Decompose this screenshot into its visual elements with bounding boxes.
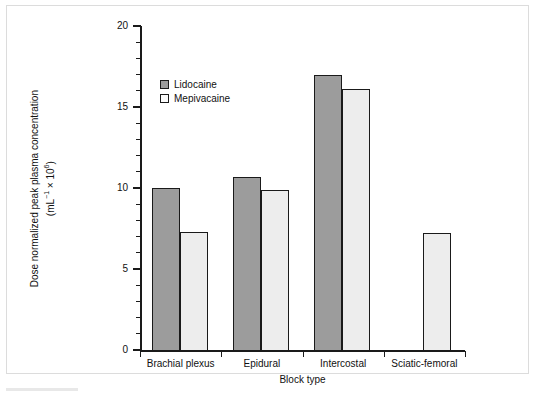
bar-mepivacaine-epidural: [261, 190, 289, 351]
x-axis-tick: [303, 351, 304, 357]
y-axis-tick-label: 20: [100, 21, 128, 31]
y-axis-title-line-2: (mL−1 × 106): [41, 84, 56, 294]
legend-entry-lidocaine: Lidocaine: [160, 78, 230, 91]
y-axis-title-line-1: Dose normalized peak plasma concentratio…: [29, 84, 41, 294]
y-axis-minor-tick: [136, 139, 141, 140]
bar-mepivacaine-intercostal: [342, 89, 370, 351]
y-axis-major-tick: [133, 106, 141, 107]
y-axis-minor-tick: [136, 204, 141, 205]
bar-lidocaine-epidural: [233, 177, 261, 351]
y-axis-minor-tick: [136, 123, 141, 124]
y-axis-tick-label: 15: [100, 102, 128, 112]
y-axis-minor-tick: [136, 155, 141, 156]
y-axis-major-tick: [133, 268, 141, 269]
y-axis-minor-tick: [136, 171, 141, 172]
bar-chart-plot-area: 05101520 Brachial plexusEpiduralIntercos…: [0, 0, 537, 401]
y-axis-major-tick: [133, 187, 141, 188]
y-axis-major-tick: [133, 25, 141, 26]
y-axis-tick-label-wrap: 10: [98, 183, 128, 193]
y-axis-tick-label: 10: [100, 183, 128, 193]
light-gray-swatch-icon: [160, 94, 169, 103]
chart-legend: Lidocaine Mepivacaine: [160, 78, 230, 106]
y-axis-minor-tick: [136, 317, 141, 318]
y-axis-title: Dose normalized peak plasma concentratio…: [29, 84, 56, 294]
y-axis-tick-label-wrap: 0: [98, 345, 128, 355]
bar-mepivacaine-brachial-plexus: [180, 232, 208, 351]
dark-gray-swatch-icon: [160, 80, 169, 89]
x-axis-tick: [221, 351, 222, 357]
x-axis-tick: [384, 351, 385, 357]
legend-label-lidocaine: Lidocaine: [174, 80, 217, 90]
y-axis-minor-tick: [136, 58, 141, 59]
bar-mepivacaine-sciatic-femoral: [423, 233, 451, 351]
bar-lidocaine-brachial-plexus: [152, 188, 180, 351]
x-axis-category-label-epidural: Epidural: [221, 358, 302, 369]
y-axis-minor-tick: [136, 236, 141, 237]
y-axis-minor-tick: [136, 301, 141, 302]
x-axis-category-label-brachial-plexus: Brachial plexus: [140, 358, 221, 369]
y-axis-tick-label: 5: [100, 264, 128, 274]
y-axis-minor-tick: [136, 74, 141, 75]
x-axis-category-label-intercostal: Intercostal: [303, 358, 384, 369]
legend-label-mepivacaine: Mepivacaine: [174, 94, 230, 104]
x-axis-category-label-sciatic-femoral: Sciatic-femoral: [384, 358, 465, 369]
x-axis-title: Block type: [140, 374, 465, 385]
y-axis-minor-tick: [136, 285, 141, 286]
x-axis-tick: [465, 351, 466, 357]
y-axis-minor-tick: [136, 252, 141, 253]
y-axis-minor-tick: [136, 220, 141, 221]
y-axis-tick-label-wrap: 15: [98, 102, 128, 112]
y-axis-tick-label-wrap: 20: [98, 21, 128, 31]
y-axis-tick-label: 0: [100, 345, 128, 355]
x-axis-tick: [140, 351, 141, 357]
y-axis-tick-label-wrap: 5: [98, 264, 128, 274]
y-axis-minor-tick: [136, 333, 141, 334]
legend-entry-mepivacaine: Mepivacaine: [160, 92, 230, 105]
bar-lidocaine-intercostal: [314, 75, 342, 351]
y-axis-minor-tick: [136, 90, 141, 91]
y-axis-minor-tick: [136, 42, 141, 43]
